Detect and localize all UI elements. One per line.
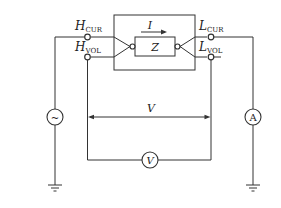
impedance-label: Z [150, 41, 159, 54]
l-vol-terminal [208, 54, 214, 60]
h-vol-label: HVOL [74, 40, 101, 55]
ammeter-symbol: A [248, 112, 257, 123]
current-label: I [147, 19, 153, 32]
voltage-arrow-right-head [205, 115, 211, 119]
h-vol-terminal [85, 54, 91, 60]
circuit-diagram: HCUR HVOL LCUR LVOL I Z V ~ A V [0, 0, 281, 208]
voltage-arrow-left-head [88, 115, 94, 119]
h-join-upper [114, 37, 130, 47]
voltage-label: V [147, 102, 156, 115]
ac-source-symbol: ~ [51, 112, 59, 123]
dut-left-terminal [130, 44, 135, 49]
h-join-lower [114, 47, 130, 58]
dut-right-terminal [175, 44, 180, 49]
h-cur-terminal [85, 34, 91, 40]
h-cur-label: HCUR [74, 19, 103, 34]
current-arrow-head [161, 30, 167, 35]
l-join-upper [180, 37, 195, 47]
l-cur-label: LCUR [198, 19, 224, 34]
l-join-lower [180, 47, 195, 58]
l-vol-label: LVOL [198, 40, 223, 55]
l-cur-terminal [208, 34, 214, 40]
